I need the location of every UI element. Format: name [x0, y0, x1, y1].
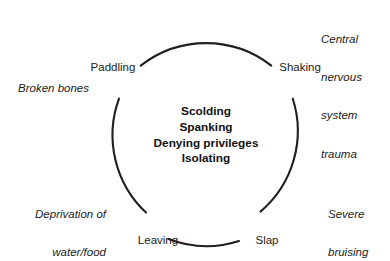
center-item-denying-privileges: Denying privileges: [113, 136, 299, 152]
annotation-deprivation-of-water-food: Deprivation of water/food: [5, 182, 106, 261]
center-item-spanking: Spanking: [113, 120, 299, 136]
diagram-canvas: Scolding Spanking Denying privileges Iso…: [0, 0, 390, 261]
ring-label-slap-mark: Slap mark: [239, 209, 295, 261]
center-label-group: Scolding Spanking Denying privileges Iso…: [113, 104, 299, 167]
annotation-broken-bones: Broken bones: [18, 56, 138, 120]
annotation-broken-bones-line1: Broken bones: [18, 82, 138, 95]
ring-label-leaving-unattended-line1: Leaving: [116, 234, 200, 247]
ring-label-leaving-unattended: Leaving unattended: [116, 209, 200, 261]
center-item-scolding: Scolding: [113, 104, 299, 120]
center-item-isolating: Isolating: [113, 151, 299, 167]
annotation-severe-bruising-line2: bruising: [328, 246, 390, 259]
ring-label-slap-mark-line1: Slap: [239, 234, 295, 247]
annotation-central-nervous-system-trauma: Central nervous system trauma: [321, 7, 387, 186]
annotation-cns-trauma-line3: system: [321, 109, 387, 122]
annotation-severe-bruising: Severe bruising: [328, 182, 390, 261]
annotation-deprivation-line2: water/food: [5, 246, 106, 259]
annotation-deprivation-line1: Deprivation of: [5, 208, 106, 221]
annotation-cns-trauma-line2: nervous: [321, 71, 387, 84]
annotation-severe-bruising-line1: Severe: [328, 208, 390, 221]
annotation-cns-trauma-line1: Central: [321, 33, 387, 46]
circle-arc-top: [141, 43, 272, 66]
annotation-cns-trauma-line4: trauma: [321, 148, 387, 161]
